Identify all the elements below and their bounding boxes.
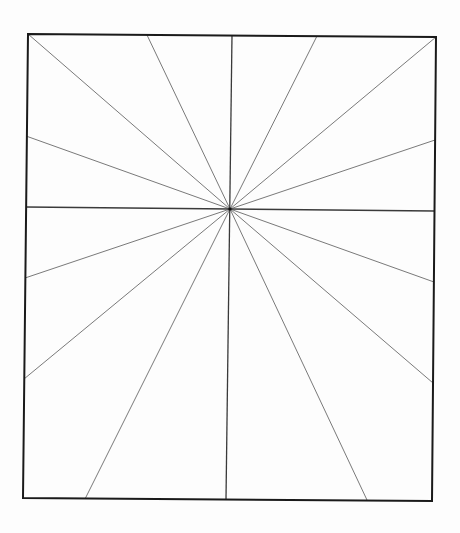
- ray-to-top-right-corner: [230, 37, 436, 209]
- ray-to-bottom-367: [230, 209, 367, 500]
- ray-to-top-147: [147, 35, 230, 209]
- ray-to-left-136: [26, 136, 230, 209]
- scanned-page: [0, 0, 460, 533]
- radiating-rays: [24, 34, 436, 500]
- ray-to-left-278: [25, 209, 230, 278]
- ray-to-right-282: [230, 209, 434, 282]
- ray-to-top-left-corner: [28, 34, 230, 209]
- axis-lines: [26, 35, 434, 499]
- ray-to-top-317: [230, 36, 317, 209]
- ray-to-right-383: [230, 209, 433, 383]
- center-point: [228, 207, 231, 210]
- ray-to-bottom-85: [85, 209, 230, 499]
- radial-lines-diagram: [0, 0, 460, 533]
- vertical-axis-line: [226, 35, 232, 499]
- ray-to-left-379: [24, 209, 230, 379]
- ray-to-right-140: [230, 140, 435, 209]
